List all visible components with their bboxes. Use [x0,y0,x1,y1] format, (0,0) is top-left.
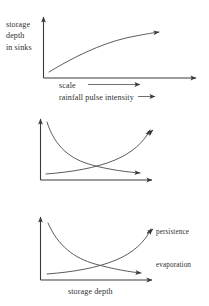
panel-2-curve-evaporation [47,122,140,173]
panel-1-y-axis-label-line1: storage [6,19,32,30]
panel-3-plot [0,202,209,306]
panel-2-plot [0,102,209,202]
panel-1-y-axis-label-line3: in sinks [6,42,32,53]
chart-panel-2: persistence evaporation storage depth [0,102,209,202]
panel-2-curve-persistence [46,130,150,174]
panel-1-y-axis-label-line2: depth [6,30,32,41]
panel-3-quantity-leader [147,229,153,234]
chart-panel-1: storage depth in sinks scale rainfall pu… [0,0,209,102]
figure-three-panel-hydrology-sketch: storage depth in sinks scale rainfall pu… [0,0,209,306]
panel-1-y-axis-label: storage depth in sinks [6,19,32,53]
panel-3-curve-frequency-of-recharges [47,229,151,274]
panel-3-curve-quantity-when-recharged [48,223,141,273]
panel-1-curve-storage-depth [49,32,159,72]
panel-1-x-axis-label-scale: scale [59,80,76,91]
chart-panel-3: quantity when recharged frequency of rec… [0,202,209,306]
